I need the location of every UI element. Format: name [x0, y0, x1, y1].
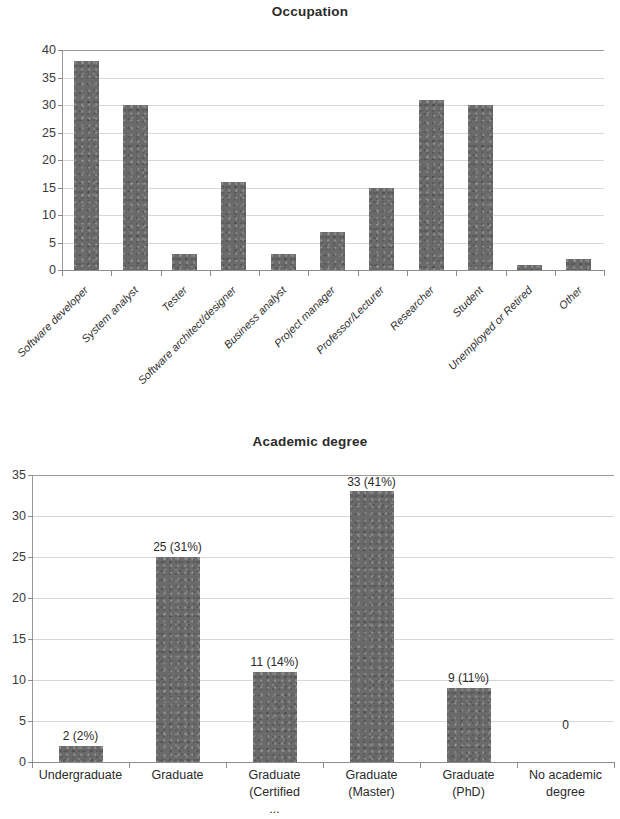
- ytick-label-35: 35: [12, 468, 26, 482]
- bar-tester: [172, 254, 197, 271]
- ytick-mark-10: [28, 680, 33, 681]
- xtick-sep-4: [259, 270, 260, 276]
- datalabel-no-academic-degree: 0: [562, 718, 569, 732]
- xtick-sep-11: [604, 270, 605, 276]
- academic-degree-chart-figure: Academic degree 35 30 25 20 15 10 5 0: [0, 420, 620, 819]
- gridline-40: [62, 50, 604, 51]
- datalabel-graduate-phd: 9 (11%): [448, 671, 489, 685]
- x-axis-line: [62, 270, 604, 271]
- ytick-mark-15: [28, 639, 33, 640]
- xlabel-line: degree: [495, 784, 620, 801]
- bar-undergraduate: [59, 746, 103, 762]
- ytick-label-30: 30: [12, 509, 26, 523]
- bar-graduate-certified: [253, 672, 297, 762]
- ytick-mark-5: [28, 721, 33, 722]
- ytick-label-25: 25: [42, 126, 56, 140]
- datalabel-graduate-master: 33 (41%): [347, 475, 396, 489]
- xtick-sep-7: [407, 270, 408, 276]
- xlabel-line: ...: [204, 801, 345, 818]
- y-axis-line: [32, 475, 33, 762]
- gridline-25: [32, 557, 614, 558]
- ytick-mark-25: [58, 133, 63, 134]
- gridline-35: [32, 475, 614, 476]
- gridline-5: [32, 721, 614, 722]
- academic-degree-chart-title: Academic degree: [0, 434, 620, 449]
- ytick-label-10: 10: [42, 208, 56, 222]
- ytick-mark-20: [58, 160, 63, 161]
- bar-student: [468, 105, 493, 270]
- datalabel-graduate: 25 (31%): [153, 540, 202, 554]
- ytick-mark-35: [58, 78, 63, 79]
- bar-system-analyst: [123, 105, 148, 270]
- ytick-label-35: 35: [42, 71, 56, 85]
- ytick-mark-20: [28, 598, 33, 599]
- datalabel-undergraduate: 2 (2%): [63, 729, 98, 743]
- xtick-sep-5: [308, 270, 309, 276]
- datalabel-graduate-certified: 11 (14%): [251, 655, 299, 669]
- ytick-label-10: 10: [12, 673, 26, 687]
- xtick-sep-9: [506, 270, 507, 276]
- ytick-mark-40: [58, 50, 63, 51]
- ytick-mark-30: [28, 516, 33, 517]
- bar-researcher: [419, 100, 444, 271]
- gridline-15: [32, 639, 614, 640]
- xlabel-line: No academic: [495, 767, 620, 784]
- gridline-30: [32, 516, 614, 517]
- ytick-mark-10: [58, 215, 63, 216]
- bar-software-developer: [74, 61, 99, 270]
- ytick-label-0: 0: [49, 263, 56, 277]
- occupation-chart-figure: Occupation 40 35 30 25 20 15 10 5 0: [0, 0, 620, 420]
- occupation-plot-area: 40 35 30 25 20 15 10 5 0: [62, 50, 604, 270]
- ytick-label-15: 15: [12, 632, 26, 646]
- ytick-label-15: 15: [42, 181, 56, 195]
- ytick-label-5: 5: [49, 236, 56, 250]
- ytick-mark-25: [28, 557, 33, 558]
- bar-graduate-phd: [447, 688, 491, 762]
- xtick-sep-2: [161, 270, 162, 276]
- xtick-sep-10: [555, 270, 556, 276]
- ytick-label-25: 25: [12, 550, 26, 564]
- bar-professor-lecturer: [369, 188, 394, 271]
- gridline-20: [32, 598, 614, 599]
- bar-project-manager: [320, 232, 345, 271]
- ytick-mark-15: [58, 188, 63, 189]
- ytick-label-5: 5: [19, 714, 26, 728]
- ytick-mark-35: [28, 475, 33, 476]
- academic-degree-plot-area: 35 30 25 20 15 10 5 0 2 (2%) 25 (31%) 11…: [32, 475, 614, 762]
- ytick-mark-5: [58, 243, 63, 244]
- ytick-label-30: 30: [42, 98, 56, 112]
- ytick-label-20: 20: [12, 591, 26, 605]
- bar-unemployed-or-retired: [517, 265, 542, 271]
- xlabel-no-academic-degree: No academic degree: [495, 767, 620, 801]
- gridline-35: [62, 78, 604, 79]
- occupation-chart-title: Occupation: [0, 4, 620, 19]
- ytick-mark-30: [58, 105, 63, 106]
- gridline-10: [32, 680, 614, 681]
- bar-other: [566, 259, 591, 270]
- xtick-sep-8: [456, 270, 457, 276]
- bar-graduate-master: [350, 491, 394, 762]
- xtick-sep-6: [358, 270, 359, 276]
- xtick-sep-0: [62, 270, 63, 276]
- ytick-label-40: 40: [42, 43, 56, 57]
- bar-graduate: [156, 557, 200, 762]
- xtick-sep-1: [111, 270, 112, 276]
- ytick-label-20: 20: [42, 153, 56, 167]
- xtick-sep-3: [210, 270, 211, 276]
- bar-software-architect-designer: [221, 182, 246, 270]
- bar-business-analyst: [271, 254, 296, 271]
